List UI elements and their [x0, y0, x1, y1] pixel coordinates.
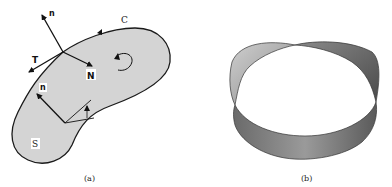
panel-a: n C T N n S (a) [12, 9, 170, 183]
caption-a: (a) [84, 174, 95, 183]
mobius-left-band [230, 43, 295, 105]
label-normal-top: n [49, 9, 55, 18]
label-surface-s: S [32, 139, 38, 149]
normal-vector-top [42, 15, 63, 52]
panel-b: (b) [230, 42, 379, 183]
mobius-right-band [295, 42, 379, 102]
label-curve-c: C [121, 15, 128, 25]
figure-canvas: n C T N n S (a) (b) [0, 0, 392, 187]
label-normal-inner: n [40, 83, 46, 92]
label-principal-normal: N [87, 71, 95, 81]
caption-b: (b) [301, 174, 312, 183]
mobius-front-band [234, 102, 377, 159]
label-tangent: T [32, 55, 39, 65]
